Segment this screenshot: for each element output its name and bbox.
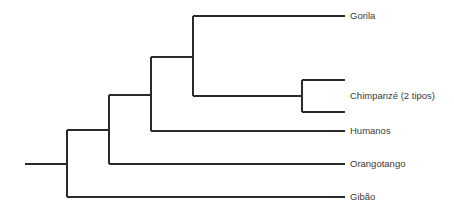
leaf-label-orangotango: Orangotango: [350, 158, 405, 170]
leaf-label-humanos: Humanos: [350, 125, 391, 137]
tree-branches: [0, 0, 454, 212]
leaf-label-gibao: Gibão: [350, 191, 375, 203]
leaf-label-chimpanze: Chimpanzé (2 tipos): [350, 90, 435, 102]
leaf-label-gorila: Gorila: [350, 10, 375, 22]
